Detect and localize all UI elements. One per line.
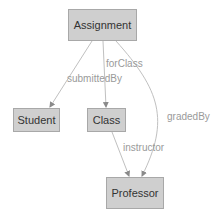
node-assignment[interactable]: Assignment	[68, 9, 137, 41]
edge-label-submittedby: submittedBy	[67, 73, 122, 84]
edge-label-forclass: forClass	[106, 58, 143, 69]
edge-instructor	[112, 132, 129, 176]
edge-label-gradedby: gradedBy	[167, 111, 210, 122]
edge-label-instructor: instructor	[123, 142, 164, 153]
node-student[interactable]: Student	[13, 108, 60, 132]
node-class[interactable]: Class	[87, 108, 126, 132]
node-professor[interactable]: Professor	[106, 177, 164, 209]
